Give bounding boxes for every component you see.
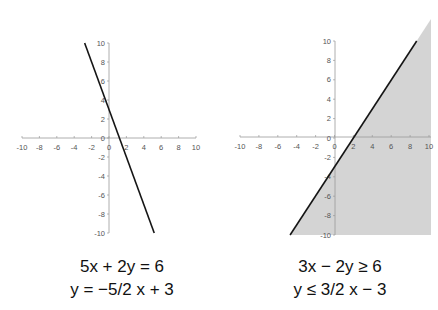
svg-text:10: 10 [192, 143, 200, 152]
graphs: -10-8-6-4-20246810 1086420-2-4-6-8-10 -1… [0, 0, 438, 250]
svg-text:6: 6 [159, 143, 163, 152]
right-chart: -10-8-6-4-20246810 1086420-2-4-6-8-10 [235, 19, 434, 239]
svg-text:4: 4 [370, 142, 374, 151]
svg-text:10: 10 [97, 39, 105, 48]
svg-text:-2: -2 [98, 153, 105, 162]
svg-text:-4: -4 [71, 143, 78, 152]
svg-text:-8: -8 [256, 142, 263, 151]
svg-text:-8: -8 [36, 143, 43, 152]
svg-text:10: 10 [425, 142, 433, 151]
svg-text:-10: -10 [94, 229, 105, 238]
svg-text:8: 8 [101, 58, 105, 67]
svg-text:-6: -6 [324, 192, 331, 201]
svg-text:-6: -6 [274, 142, 281, 151]
svg-text:6: 6 [101, 77, 105, 86]
svg-text:6: 6 [389, 142, 393, 151]
svg-text:-2: -2 [88, 143, 95, 152]
svg-text:8: 8 [177, 143, 181, 152]
svg-text:-6: -6 [98, 191, 105, 200]
svg-text:2: 2 [101, 115, 105, 124]
svg-text:8: 8 [327, 56, 331, 65]
svg-text:-10: -10 [320, 231, 331, 240]
svg-text:4: 4 [327, 95, 331, 104]
svg-text:-6: -6 [53, 143, 60, 152]
svg-text:2: 2 [327, 114, 331, 123]
svg-text:0: 0 [332, 142, 336, 151]
svg-text:2: 2 [351, 142, 355, 151]
svg-text:-4: -4 [293, 142, 300, 151]
svg-text:-8: -8 [324, 211, 331, 220]
svg-text:0: 0 [101, 134, 105, 143]
svg-text:8: 8 [408, 142, 412, 151]
left-chart: -10-8-6-4-20246810 1086420-2-4-6-8-10 [17, 39, 201, 238]
left-equation-slope-intercept: y = −5/2 x + 3 [52, 280, 192, 300]
svg-text:4: 4 [142, 143, 146, 152]
svg-text:-10: -10 [17, 143, 28, 152]
left-equation-standard: 5x + 2y = 6 [62, 257, 182, 277]
svg-text:-10: -10 [235, 142, 246, 151]
svg-text:-2: -2 [312, 142, 319, 151]
svg-text:-4: -4 [98, 172, 105, 181]
svg-text:2: 2 [124, 143, 128, 152]
svg-text:0: 0 [107, 143, 111, 152]
svg-text:0: 0 [327, 134, 331, 143]
svg-text:10: 10 [323, 37, 331, 46]
right-inequality-standard: 3x − 2y ≥ 6 [280, 257, 400, 277]
right-inequality-slope-intercept: y ≤ 3/2 x − 3 [280, 280, 400, 300]
svg-text:6: 6 [327, 75, 331, 84]
svg-text:-8: -8 [98, 210, 105, 219]
svg-text:-2: -2 [324, 153, 331, 162]
